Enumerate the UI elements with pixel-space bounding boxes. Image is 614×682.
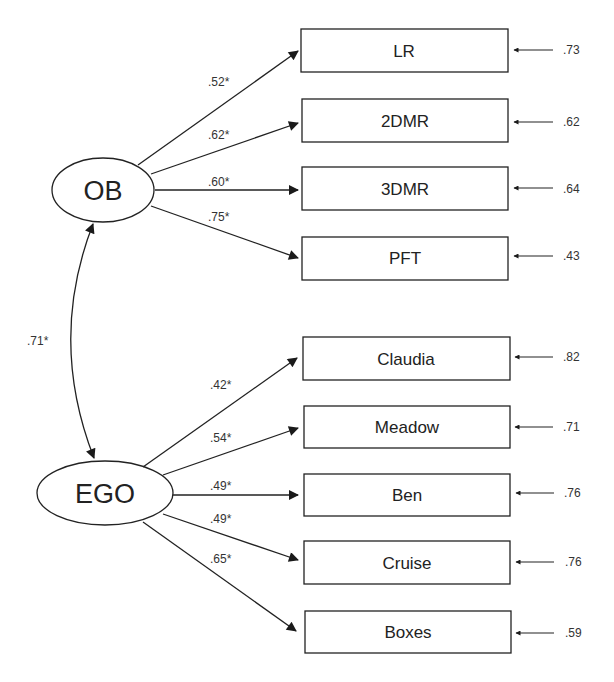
error-label-cruise: .76	[565, 555, 582, 569]
loading-label-ben: .49*	[210, 479, 232, 493]
indicator-label: PFT	[389, 249, 421, 268]
latent-ego: EGO	[37, 461, 173, 525]
error-label-lr: .73	[563, 43, 580, 57]
indicator-2dmr: 2DMR	[302, 99, 508, 142]
loading-label-3dmr: .60*	[208, 175, 230, 189]
error-label-claudia: .82	[563, 350, 580, 364]
indicator-label: Ben	[392, 486, 422, 505]
indicator-cruise: Cruise	[304, 541, 510, 584]
error-arrows	[514, 50, 554, 633]
loading-label-cruise: .49*	[210, 512, 232, 526]
indicator-label: Claudia	[377, 350, 435, 369]
latent-ob-label: OB	[83, 176, 122, 206]
latent-ego-label: EGO	[75, 479, 135, 509]
loading-label-boxes: .65*	[210, 552, 232, 566]
loading-label-lr: .52*	[208, 75, 230, 89]
indicator-label: 3DMR	[381, 180, 429, 199]
indicator-meadow: Meadow	[304, 406, 510, 448]
loading-arrow-lr	[138, 51, 298, 165]
loading-label-meadow: .54*	[210, 431, 232, 445]
indicator-boxes: Boxes	[305, 611, 511, 653]
sem-diagram: OB EGO .71* .52* .62* .60* .75* .42* .54…	[0, 0, 614, 682]
loading-arrow-boxes	[143, 522, 296, 631]
loading-arrow-claudia	[143, 358, 297, 467]
indicator-label: 2DMR	[381, 112, 429, 131]
latent-ob: OB	[52, 158, 154, 222]
correlation-arrow	[71, 224, 94, 458]
error-label-pft: .43	[563, 249, 580, 263]
error-label-boxes: .59	[565, 626, 582, 640]
error-label-ben: .76	[564, 486, 581, 500]
indicator-claudia: Claudia	[303, 337, 510, 380]
loading-label-claudia: .42*	[210, 378, 232, 392]
indicator-label: Boxes	[384, 623, 431, 642]
indicator-ben: Ben	[304, 474, 510, 516]
error-label-3dmr: .64	[563, 182, 580, 196]
correlation-label: .71*	[27, 334, 49, 348]
indicator-3dmr: 3DMR	[302, 167, 508, 210]
error-label-meadow: .71	[563, 420, 580, 434]
error-label-2dmr: .62	[563, 115, 580, 129]
indicator-label: LR	[393, 42, 415, 61]
loading-label-pft: .75*	[208, 210, 230, 224]
indicator-pft: PFT	[302, 237, 508, 280]
indicator-label: Cruise	[382, 554, 431, 573]
indicator-label: Meadow	[375, 418, 440, 437]
indicator-lr: LR	[301, 29, 508, 72]
loading-label-2dmr: .62*	[208, 128, 230, 142]
